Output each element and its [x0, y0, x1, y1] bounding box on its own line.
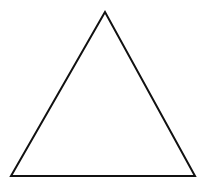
triangle-figure [0, 0, 208, 190]
triangle-outline [11, 12, 195, 176]
diagram-canvas [0, 0, 208, 190]
